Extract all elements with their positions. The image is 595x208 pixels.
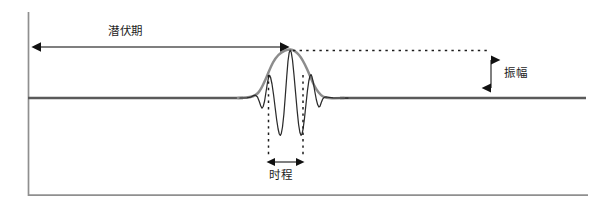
waveform-figure: 潜伏期 振幅 时程 xyxy=(0,0,595,208)
amplitude-label: 振幅 xyxy=(504,68,527,80)
waveform-trace xyxy=(240,50,348,135)
waveform-envelope xyxy=(238,50,344,99)
duration-label: 时程 xyxy=(269,170,292,182)
axes-group xyxy=(28,12,588,196)
figure-canvas xyxy=(0,0,595,208)
latency-label: 潜伏期 xyxy=(108,26,143,38)
